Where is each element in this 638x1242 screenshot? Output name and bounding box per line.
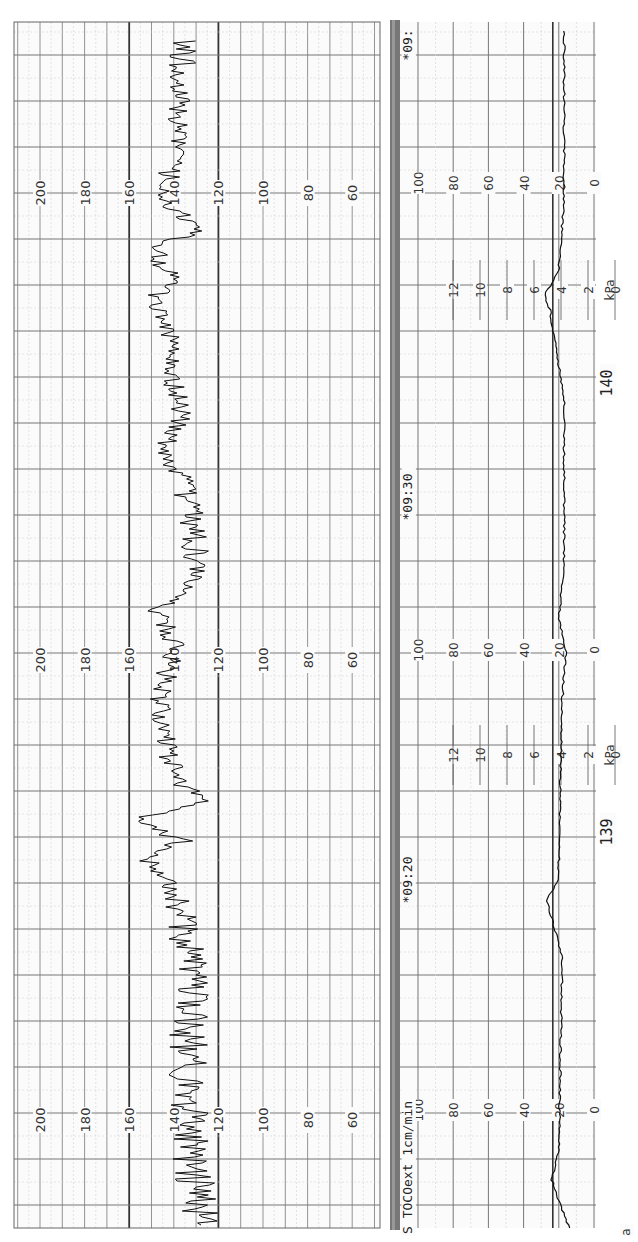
edge-char: a: [619, 1224, 634, 1236]
toco-scale-label: 0: [587, 1099, 602, 1121]
kpa-scale-label: 10: [473, 281, 488, 299]
fhr-scale-label: 80: [301, 647, 316, 673]
svg-text:10: 10: [474, 747, 488, 762]
toco-scale-label: 100: [411, 639, 426, 662]
svg-text:40: 40: [518, 175, 532, 190]
svg-text:60: 60: [345, 652, 360, 669]
svg-text:*09:: *09:: [400, 29, 415, 60]
toco-scale-label: 40: [517, 639, 532, 661]
svg-text:0: 0: [588, 179, 602, 187]
kpa-scale-label: 6: [527, 281, 542, 299]
svg-text:160: 160: [122, 648, 137, 673]
svg-text:0: 0: [588, 646, 602, 654]
svg-text:120: 120: [211, 648, 226, 673]
svg-text:40: 40: [518, 642, 532, 657]
svg-text:2: 2: [582, 751, 596, 759]
svg-text:80: 80: [447, 642, 461, 657]
svg-text:8: 8: [501, 751, 515, 759]
kpa-unit-label: kPa: [603, 745, 617, 766]
svg-text:80: 80: [301, 1112, 316, 1129]
svg-text:2: 2: [582, 286, 596, 294]
fhr-scale-label: 200: [33, 180, 48, 206]
svg-text:0: 0: [588, 1106, 602, 1114]
svg-text:100: 100: [412, 172, 426, 195]
kpa-scale-label: 2: [581, 281, 596, 299]
fhr-scale-label: 100: [256, 647, 271, 673]
svg-text:60: 60: [482, 175, 496, 190]
fhr-panel: [14, 22, 380, 1228]
fhr-scale-label: 140: [167, 1107, 182, 1133]
kpa-scale-label: 12: [446, 281, 461, 299]
svg-text:80: 80: [447, 1102, 461, 1117]
svg-text:140: 140: [167, 1108, 182, 1133]
kpa-scale-label: 8: [500, 746, 515, 764]
toco-scale-label: 60: [481, 172, 496, 194]
toco-scale-label: 80: [446, 639, 461, 661]
time-mark-0920: *09:20: [400, 850, 416, 905]
svg-text:12: 12: [447, 282, 461, 297]
time-mark-0930: *09:30: [400, 467, 416, 522]
svg-text:80: 80: [447, 175, 461, 190]
svg-text:4: 4: [555, 286, 569, 294]
fhr-scale-label: 180: [78, 180, 93, 206]
fhr-scale-label: 200: [33, 1107, 48, 1133]
svg-text:180: 180: [78, 181, 93, 206]
svg-text:139: 139: [598, 818, 616, 845]
toco-scale-label: 60: [481, 639, 496, 661]
svg-text:*09:20: *09:20: [400, 857, 415, 904]
svg-text:60: 60: [482, 1102, 496, 1117]
page-number-140: 140: [598, 364, 617, 398]
fhr-scale-label: 120: [211, 1107, 226, 1133]
toco-scale-label: 80: [446, 172, 461, 194]
kpa-scale-label: 8: [500, 281, 515, 299]
toco-scale-label: 40: [517, 1099, 532, 1121]
fhr-scale-label: 160: [122, 180, 137, 206]
svg-text:180: 180: [78, 1108, 93, 1133]
fhr-scale-label: 80: [301, 1107, 316, 1133]
svg-text:100: 100: [256, 1108, 271, 1133]
svg-text:a: a: [619, 1228, 633, 1235]
svg-text:40: 40: [518, 1102, 532, 1117]
ctg-strip: 2001801601401201008060200180160140120100…: [0, 0, 638, 1242]
svg-text:12: 12: [447, 747, 461, 762]
toco-scale-label: 80: [446, 1099, 461, 1121]
toco-scale-label: 100: [411, 172, 426, 195]
toco-mode-header: S TOCOext 1cm/min: [400, 1086, 416, 1236]
fhr-scale-label: 60: [345, 180, 360, 206]
fhr-scale-label: 100: [256, 180, 271, 206]
fhr-scale-label: 200: [33, 647, 48, 673]
svg-text:60: 60: [345, 1112, 360, 1129]
kpa-scale-label: 2: [581, 746, 596, 764]
fhr-scale-label: 120: [211, 180, 226, 206]
fhr-scale-label: 60: [345, 1107, 360, 1133]
kpa-scale-label: 4: [554, 281, 569, 299]
svg-text:10: 10: [474, 282, 488, 297]
svg-text:kPa: kPa: [603, 280, 617, 301]
svg-text:80: 80: [301, 185, 316, 202]
svg-text:200: 200: [33, 648, 48, 673]
svg-text:120: 120: [211, 1108, 226, 1133]
page-number-139: 139: [598, 813, 617, 847]
svg-text:140: 140: [598, 369, 616, 396]
fhr-scale-label: 180: [78, 647, 93, 673]
fhr-scale-label: 160: [122, 647, 137, 673]
kpa-scale-label: 12: [446, 746, 461, 764]
fhr-scale-label: 80: [301, 180, 316, 206]
svg-text:180: 180: [78, 648, 93, 673]
svg-text:80: 80: [301, 652, 316, 669]
svg-text:kPa: kPa: [603, 745, 617, 766]
fhr-scale-label: 180: [78, 1107, 93, 1133]
toco-scale-label: 60: [481, 1099, 496, 1121]
svg-text:160: 160: [122, 181, 137, 206]
svg-text:8: 8: [501, 286, 515, 294]
svg-text:120: 120: [211, 181, 226, 206]
svg-text:S TOCOext 1cm/min: S TOCOext 1cm/min: [400, 1101, 415, 1234]
fhr-scale-label: 160: [122, 1107, 137, 1133]
svg-text:4: 4: [555, 751, 569, 759]
fhr-scale-label: 60: [345, 647, 360, 673]
svg-text:6: 6: [528, 286, 542, 294]
svg-text:200: 200: [33, 181, 48, 206]
kpa-scale-label: 10: [473, 746, 488, 764]
svg-text:*09:30: *09:30: [400, 474, 415, 521]
toco-scale-label: 0: [587, 172, 602, 194]
